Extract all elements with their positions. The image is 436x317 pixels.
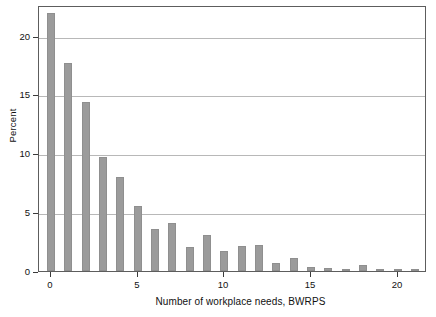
y-axis-tick-label: 5 — [8, 207, 30, 218]
x-axis-tick-label: 0 — [35, 279, 65, 290]
bar — [168, 223, 176, 271]
x-axis-title: Number of workplace needs, BWRPS — [55, 296, 426, 307]
x-axis-tick — [397, 272, 398, 277]
gridline — [39, 155, 425, 156]
x-axis-tick — [50, 272, 51, 277]
bar — [359, 265, 367, 271]
bar — [307, 267, 315, 271]
x-axis-tick — [310, 272, 311, 277]
y-axis-tick-label: 20 — [8, 31, 30, 42]
plot-area — [38, 6, 426, 272]
bar — [203, 235, 211, 271]
bar — [47, 13, 55, 271]
bar — [255, 245, 263, 271]
gridline — [39, 38, 425, 39]
y-axis-tick — [33, 272, 38, 273]
gridline — [39, 96, 425, 97]
bar — [290, 258, 298, 271]
x-axis-tick — [223, 272, 224, 277]
x-axis-tick-label: 15 — [295, 279, 325, 290]
x-axis-tick-label: 20 — [382, 279, 412, 290]
gridline — [39, 214, 425, 215]
bar — [82, 102, 90, 271]
y-axis-tick-label: 0 — [8, 266, 30, 277]
bar — [411, 269, 419, 271]
bar — [272, 263, 280, 271]
bar — [99, 157, 107, 271]
bar — [64, 63, 72, 271]
bar — [134, 206, 142, 271]
bar — [220, 251, 228, 271]
bar — [342, 269, 350, 271]
bar — [324, 268, 332, 271]
x-axis-tick-label: 10 — [208, 279, 238, 290]
bar — [394, 269, 402, 271]
bar — [116, 177, 124, 271]
y-axis-tick-label: 10 — [8, 148, 30, 159]
y-axis-tick-label: 15 — [8, 89, 30, 100]
x-axis-tick — [137, 272, 138, 277]
x-axis-tick-label: 5 — [122, 279, 152, 290]
bar — [186, 247, 194, 271]
bar — [376, 269, 384, 271]
bar — [151, 229, 159, 271]
histogram-figure: Percent 05101520 05101520 Number of work… — [0, 0, 436, 317]
bar — [238, 246, 246, 271]
